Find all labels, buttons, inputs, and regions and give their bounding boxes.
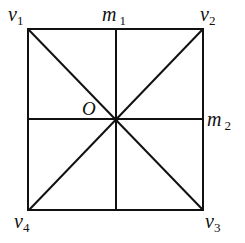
label-center-O: O [82,98,96,119]
label-v1: v1 [8,3,23,28]
label-m1: m1 [102,3,126,28]
label-m2: m2 [207,108,231,133]
label-v2: v2 [200,3,215,28]
label-v3: v3 [205,210,220,235]
label-v4: v4 [14,210,30,235]
square-symmetry-diagram: v1 m1 v2 O m2 v4 v3 [0,0,245,243]
center-point [114,117,119,122]
